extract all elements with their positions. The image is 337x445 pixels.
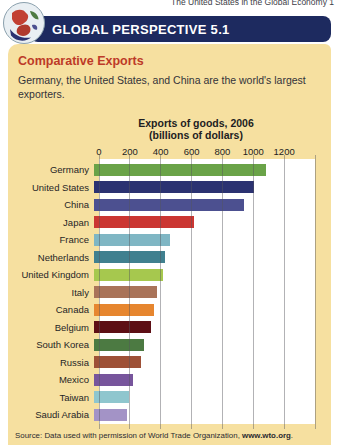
x-axis: 020040060080010001200 [99, 146, 315, 159]
category-label: Belgium [8, 322, 94, 333]
bar-track [94, 164, 310, 176]
bar-track [94, 409, 310, 421]
figure-panel: Comparative Exports Germany, the United … [8, 44, 331, 445]
figure-heading: Comparative Exports [18, 54, 331, 68]
bar-row: Russia [8, 353, 331, 371]
category-label: United Kingdom [8, 269, 94, 280]
bar-track [94, 356, 310, 368]
category-label: Saudi Arabia [8, 409, 94, 420]
chart-subtitle: (billions of dollars) [88, 129, 304, 141]
category-label: Taiwan [8, 392, 94, 403]
category-label: China [8, 199, 94, 210]
category-label: United States [8, 182, 94, 193]
banner-title: GLOBAL PERSPECTIVE 5.1 [52, 22, 230, 37]
bar-track [94, 339, 310, 351]
bar-track [94, 199, 310, 211]
globe-icon [2, 1, 46, 45]
banner: GLOBAL PERSPECTIVE 5.1 [30, 16, 331, 42]
source-link: www.wto.org [242, 431, 291, 440]
bar-row: United Kingdom [8, 266, 331, 284]
bar-row: Taiwan [8, 388, 331, 406]
bar-taiwan [94, 391, 129, 403]
bar-row: Belgium [8, 318, 331, 336]
bar-track [94, 304, 310, 316]
bar-track [94, 251, 310, 263]
bar-mexico [94, 374, 133, 386]
bar-row: Saudi Arabia [8, 406, 331, 424]
bar-france [94, 234, 170, 246]
source-suffix: . [291, 431, 293, 440]
category-label: Canada [8, 304, 94, 315]
bar-track [94, 286, 310, 298]
category-label: South Korea [8, 339, 94, 350]
bar-netherlands [94, 251, 165, 263]
bar-row: France [8, 231, 331, 249]
bar-track [94, 374, 310, 386]
x-tick-label: 200 [122, 146, 138, 157]
bar-saudi-arabia [94, 409, 127, 421]
bar-italy [94, 286, 157, 298]
figure-description: Germany, the United States, and China ar… [18, 73, 320, 102]
bar-row: United States [8, 178, 331, 196]
bar-south-korea [94, 339, 144, 351]
bar-row: Netherlands [8, 248, 331, 266]
x-tick-label: 400 [153, 146, 169, 157]
bar-row: Italy [8, 283, 331, 301]
bar-row: Canada [8, 301, 331, 319]
bar-rows: GermanyUnited StatesChinaJapanFranceNeth… [8, 161, 331, 424]
bar-japan [94, 216, 194, 228]
bar-track [94, 234, 310, 246]
running-head: The United States in the Global Economy … [171, 0, 334, 7]
bar-row: Mexico [8, 371, 331, 389]
source-text: Source: Data used with permission of Wor… [15, 431, 242, 440]
bar-track [94, 216, 310, 228]
category-label: Japan [8, 217, 94, 228]
bar-germany [94, 164, 266, 176]
category-label: Russia [8, 357, 94, 368]
category-label: Germany [8, 164, 94, 175]
bar-canada [94, 304, 154, 316]
global-perspective-figure: The United States in the Global Economy … [0, 0, 337, 445]
bar-chart: GermanyUnited StatesChinaJapanFranceNeth… [8, 159, 331, 424]
bar-row: South Korea [8, 336, 331, 354]
bar-track [94, 321, 310, 333]
category-label: France [8, 234, 94, 245]
bar-russia [94, 356, 141, 368]
bar-united-kingdom [94, 269, 163, 281]
source-line: Source: Data used with permission of Wor… [15, 431, 293, 440]
x-tick-label: 1200 [274, 146, 295, 157]
x-tick-label: 0 [96, 146, 101, 157]
category-label: Netherlands [8, 252, 94, 263]
bar-track [94, 269, 310, 281]
bar-china [94, 199, 244, 211]
category-label: Italy [8, 287, 94, 298]
bar-track [94, 391, 310, 403]
x-tick-label: 600 [184, 146, 200, 157]
bar-united-states [94, 181, 254, 193]
chart-title: Exports of goods, 2006 [88, 117, 304, 129]
category-label: Mexico [8, 374, 94, 385]
bar-row: Germany [8, 161, 331, 179]
chart-title-block: Exports of goods, 2006 (billions of doll… [88, 117, 304, 141]
x-tick-label: 1000 [243, 146, 264, 157]
bar-row: China [8, 196, 331, 214]
bar-row: Japan [8, 213, 331, 231]
bar-belgium [94, 321, 151, 333]
x-tick-label: 800 [214, 146, 230, 157]
bar-track [94, 181, 310, 193]
